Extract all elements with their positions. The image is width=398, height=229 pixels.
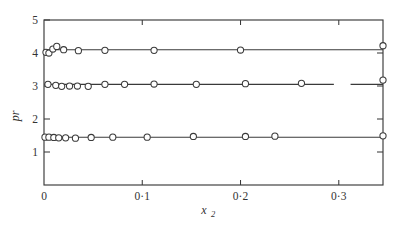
data-point-lower — [63, 135, 69, 141]
x-tick-label: 0·3 — [331, 190, 347, 202]
data-point-upper — [75, 48, 81, 54]
data-point-upper — [102, 47, 108, 53]
data-point-upper — [54, 43, 60, 49]
data-point-lower — [56, 135, 62, 141]
data-point-middle — [242, 81, 248, 87]
data-point-middle — [151, 81, 157, 87]
data-point-lower — [272, 133, 278, 139]
scatter-plot-canvas: 00·10·20·312345prx2 — [0, 0, 398, 229]
data-point-middle — [59, 83, 65, 89]
y-tick-label: 1 — [32, 146, 38, 158]
data-point-middle — [193, 81, 199, 87]
x-axis-label-subscript: 2 — [211, 209, 216, 219]
data-point-middle — [121, 81, 127, 87]
data-point-lower — [144, 134, 150, 140]
data-point-upper — [380, 43, 386, 49]
data-point-upper — [61, 47, 67, 53]
data-point-upper — [151, 47, 157, 53]
data-point-middle — [85, 83, 91, 89]
data-point-lower — [190, 133, 196, 139]
data-point-middle — [45, 81, 51, 87]
data-point-lower — [380, 133, 386, 139]
data-point-middle — [380, 77, 386, 83]
data-point-middle — [102, 81, 108, 87]
data-point-lower — [88, 134, 94, 140]
x-axis-label: x — [200, 203, 207, 217]
x-tick-label: 0·2 — [233, 190, 249, 202]
x-tick-label: 0 — [41, 190, 47, 202]
data-point-lower — [110, 134, 116, 140]
chart-figure: 00·10·20·312345prx2 — [0, 0, 398, 229]
y-tick-label: 2 — [32, 113, 38, 125]
data-point-middle — [66, 83, 72, 89]
y-tick-label: 5 — [32, 14, 38, 26]
data-point-lower — [72, 135, 78, 141]
y-tick-label: 4 — [32, 47, 38, 59]
data-point-middle — [298, 80, 304, 86]
y-axis-label: pr — [8, 110, 22, 122]
data-point-middle — [53, 82, 59, 88]
y-tick-label: 3 — [32, 80, 38, 92]
plot-frame — [44, 20, 383, 185]
data-point-lower — [242, 133, 248, 139]
data-point-middle — [74, 83, 80, 89]
x-tick-label: 0·1 — [135, 190, 151, 202]
data-point-upper — [237, 47, 243, 53]
